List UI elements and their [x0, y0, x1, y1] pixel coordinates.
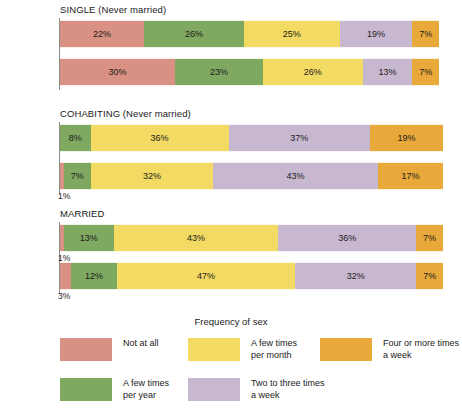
legend-item-few-times-per-year[interactable]: A few times per year	[60, 378, 169, 401]
segment-not-at-all[interactable]: 30%	[60, 58, 175, 86]
segment-four-or-more-times-a-week[interactable]: 7%	[416, 262, 443, 290]
segment-four-or-more-times-a-week[interactable]: 7%	[416, 224, 443, 252]
segment-two-to-three-times-a-week[interactable]: 32%	[295, 262, 416, 290]
segment-few-times-per-month[interactable]: 43%	[114, 224, 279, 252]
group-title-single: SINGLE (Never married)	[60, 4, 166, 15]
segment-few-times-per-month[interactable]: 32%	[91, 162, 214, 190]
segment-two-to-three-times-a-week[interactable]: 36%	[278, 224, 416, 252]
segment-few-times-per-year[interactable]: 23%	[175, 58, 263, 86]
segment-few-times-per-year[interactable]: 7%	[64, 162, 91, 190]
segment-two-to-three-times-a-week[interactable]: 43%	[213, 162, 378, 190]
stacked-bar-chart: SINGLE (Never married) Male 22% 26% 25% …	[0, 0, 462, 420]
segment-four-or-more-times-a-week[interactable]: 17%	[378, 162, 443, 190]
legend-swatch-two-to-three-times-a-week	[188, 378, 240, 401]
segment-few-times-per-month[interactable]: 26%	[263, 58, 363, 86]
legend-label-two-to-three-times-a-week: Two to three times a week	[251, 378, 325, 401]
segment-few-times-per-year[interactable]: 13%	[64, 224, 114, 252]
stacked-bar: 3% 12% 47% 32% 7%	[60, 262, 443, 290]
segment-four-or-more-times-a-week[interactable]: 19%	[370, 124, 443, 152]
segment-few-times-per-month[interactable]: 25%	[244, 20, 340, 48]
segment-few-times-per-year[interactable]: 26%	[144, 20, 244, 48]
legend-swatch-not-at-all	[60, 338, 112, 361]
segment-few-times-per-month[interactable]: 47%	[117, 262, 295, 290]
callout-not-at-all: 3%	[58, 291, 70, 301]
legend-label-four-or-more-times-a-week: Four or more times a week	[383, 338, 459, 361]
legend-title: Frequency of sex	[0, 316, 462, 327]
legend-label-not-at-all: Not at all	[123, 338, 159, 350]
segment-two-to-three-times-a-week[interactable]: 37%	[229, 124, 371, 152]
segment-not-at-all[interactable]: 3%	[60, 262, 71, 290]
segment-four-or-more-times-a-week[interactable]: 7%	[412, 58, 439, 86]
legend: Not at all A few times per month Four or…	[0, 338, 462, 416]
segment-four-or-more-times-a-week[interactable]: 7%	[412, 20, 439, 48]
stacked-bar: 8% 36% 37% 19%	[60, 124, 443, 152]
legend-swatch-four-or-more-times-a-week	[320, 338, 372, 361]
segment-two-to-three-times-a-week[interactable]: 19%	[340, 20, 413, 48]
legend-item-four-or-more-times-a-week[interactable]: Four or more times a week	[320, 338, 459, 361]
legend-item-not-at-all[interactable]: Not at all	[60, 338, 159, 361]
legend-item-two-to-three-times-a-week[interactable]: Two to three times a week	[188, 378, 325, 401]
segment-few-times-per-year[interactable]: 12%	[71, 262, 117, 290]
legend-swatch-few-times-per-month	[188, 338, 240, 361]
segment-few-times-per-year[interactable]: 8%	[60, 124, 91, 152]
stacked-bar: 1% 7% 32% 43% 17%	[60, 162, 443, 190]
group-title-cohabiting: COHABITING (Never married)	[60, 108, 191, 119]
legend-item-few-times-per-month[interactable]: A few times per month	[188, 338, 297, 361]
stacked-bar: 30% 23% 26% 13% 7%	[60, 58, 443, 86]
legend-label-few-times-per-month: A few times per month	[251, 338, 297, 361]
stacked-bar: 22% 26% 25% 19% 7%	[60, 20, 443, 48]
segment-two-to-three-times-a-week[interactable]: 13%	[363, 58, 413, 86]
segment-not-at-all[interactable]: 22%	[60, 20, 144, 48]
callout-not-at-all: 1%	[58, 191, 70, 201]
legend-label-few-times-per-year: A few times per year	[123, 378, 169, 401]
stacked-bar: 1% 13% 43% 36% 7%	[60, 224, 443, 252]
segment-few-times-per-month[interactable]: 36%	[91, 124, 229, 152]
group-title-married: MARRIED	[60, 208, 105, 219]
legend-swatch-few-times-per-year	[60, 378, 112, 401]
